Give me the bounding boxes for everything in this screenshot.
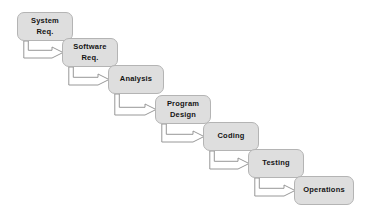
- connector-arrow-program-design-to-coding: [162, 124, 204, 142]
- connector-arrow-coding-to-testing: [210, 151, 249, 169]
- stage-box-program-design[interactable]: Program Design: [155, 95, 211, 124]
- connector-arrow-analysis-to-program-design: [115, 94, 156, 115]
- stage-label-software-req: Software Req.: [71, 42, 108, 62]
- stage-label-operations: Operations: [301, 185, 347, 195]
- stage-label-program-design: Program Design: [165, 99, 201, 119]
- stage-box-coding[interactable]: Coding: [203, 122, 259, 151]
- waterfall-diagram: System Req. Software Req. Analysis Progr…: [0, 0, 370, 218]
- connector-arrow-software-req-to-analysis: [69, 67, 109, 85]
- stage-box-operations[interactable]: Operations: [294, 176, 354, 205]
- stage-box-analysis[interactable]: Analysis: [108, 65, 164, 94]
- stage-box-software-req[interactable]: Software Req.: [62, 38, 118, 67]
- stage-box-testing[interactable]: Testing: [248, 149, 304, 178]
- stage-label-analysis: Analysis: [118, 74, 154, 84]
- connector-arrow-system-req-to-software-req: [24, 41, 63, 58]
- connector-arrow-testing-to-operations: [255, 178, 295, 196]
- stage-label-system-req: System Req.: [29, 16, 61, 36]
- stage-box-system-req[interactable]: System Req.: [17, 12, 73, 41]
- stage-label-testing: Testing: [260, 158, 292, 168]
- stage-label-coding: Coding: [215, 131, 246, 141]
